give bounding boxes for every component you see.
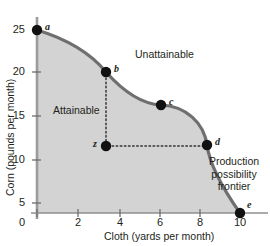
point-label-c: c <box>169 96 173 107</box>
x-tick-4: 4 <box>110 216 130 228</box>
chart-canvas <box>0 0 270 246</box>
ppf-caption-line-3: frontier <box>199 180 269 193</box>
data-point-a <box>32 25 42 35</box>
point-label-b: b <box>114 63 119 74</box>
x-tick-8: 8 <box>190 216 210 228</box>
ppf-caption-line-1: Production <box>199 155 269 168</box>
point-label-a: a <box>45 21 50 32</box>
data-point-z <box>101 141 111 151</box>
ppf-caption: Production possibility frontier <box>199 155 269 193</box>
y-tick-5: 5 <box>5 196 25 208</box>
y-tick-20: 20 <box>5 65 25 77</box>
point-label-d: d <box>215 136 220 147</box>
attainable-label: Attainable <box>53 104 100 116</box>
ppf-caption-line-2: possibility <box>199 168 269 181</box>
data-point-d <box>202 140 212 150</box>
point-label-z: z <box>93 138 97 149</box>
data-point-b <box>101 67 111 77</box>
x-tick-10: 10 <box>230 216 250 228</box>
data-point-c <box>156 100 166 110</box>
x-tick-6: 6 <box>150 216 170 228</box>
y-tick-25: 25 <box>5 23 25 35</box>
x-axis-title: Cloth (yards per month) <box>104 230 214 242</box>
unattainable-label: Unattainable <box>135 48 194 60</box>
y-axis-title: Corn (pounds per month) <box>4 79 16 196</box>
point-label-e: e <box>247 199 251 210</box>
ppf-chart: 25 20 15 10 5 0 2 4 6 8 10 Corn (pounds … <box>0 0 270 246</box>
y-tick-0: 0 <box>5 216 25 228</box>
x-tick-2: 2 <box>68 216 88 228</box>
